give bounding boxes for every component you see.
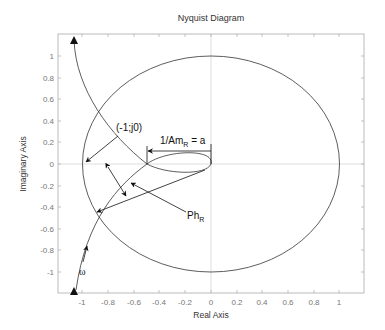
curve-end-marker-icon xyxy=(70,287,78,295)
y-tick-labels: 1 0.8 0.6 0.4 0.2 0 -0.2 -0.4 -0.6 -0.8 … xyxy=(40,52,54,277)
nyquist-chart: Nyquist Diagram -1 -0.8 -0.6 -0.4 -0.2 0… xyxy=(0,0,385,330)
svg-text:-0.6: -0.6 xyxy=(127,298,141,307)
svg-text:0.6: 0.6 xyxy=(282,298,294,307)
nyquist-lower-branch xyxy=(76,164,147,290)
svg-text:-0.2: -0.2 xyxy=(40,182,54,191)
svg-text:0.4: 0.4 xyxy=(43,117,55,126)
x-axis-label: Real Axis xyxy=(193,310,228,320)
svg-text:0.2: 0.2 xyxy=(231,298,243,307)
svg-text:-0.4: -0.4 xyxy=(152,298,166,307)
x-tick-labels: -1 -0.8 -0.6 -0.4 -0.2 0 0.2 0.4 0.6 0.8… xyxy=(78,298,341,307)
svg-text:-0.6: -0.6 xyxy=(40,225,54,234)
svg-text:-0.8: -0.8 xyxy=(101,298,115,307)
svg-text:-0.4: -0.4 xyxy=(40,203,54,212)
gain-margin-label: 1/AmR = a xyxy=(160,135,206,148)
chart-title: Nyquist Diagram xyxy=(178,13,245,23)
curve-start-marker-icon xyxy=(70,36,78,44)
x-ticks xyxy=(82,34,339,293)
svg-text:0.8: 0.8 xyxy=(308,298,320,307)
svg-text:-0.2: -0.2 xyxy=(178,298,192,307)
y-axis-label: Imaginary Axis xyxy=(18,136,28,191)
omega-label: ω xyxy=(79,266,86,277)
nyquist-upper-branch xyxy=(74,40,147,164)
svg-text:1: 1 xyxy=(337,298,342,307)
svg-text:1: 1 xyxy=(50,52,55,61)
svg-text:0.6: 0.6 xyxy=(43,95,55,104)
critical-point-arrow xyxy=(86,136,118,162)
svg-text:-1: -1 xyxy=(47,268,55,277)
phase-crossing-arrow xyxy=(97,170,205,212)
phase-margin-label: PhR xyxy=(187,210,204,223)
svg-text:-1: -1 xyxy=(78,298,86,307)
nyquist-loop xyxy=(147,153,211,173)
svg-text:0: 0 xyxy=(50,160,55,169)
svg-text:0.8: 0.8 xyxy=(43,74,55,83)
svg-text:0.4: 0.4 xyxy=(256,298,268,307)
svg-text:-0.8: -0.8 xyxy=(40,246,54,255)
critical-point-label: (-1;j0) xyxy=(116,122,142,133)
phase-margin-pointer xyxy=(131,183,186,212)
svg-text:0: 0 xyxy=(209,298,214,307)
svg-text:0.2: 0.2 xyxy=(43,138,55,147)
